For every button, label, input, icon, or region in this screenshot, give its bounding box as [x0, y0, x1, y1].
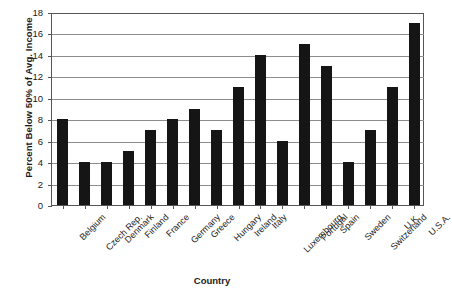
y-tick-mark	[48, 99, 52, 100]
bar	[387, 87, 398, 205]
x-tick-mark	[195, 205, 196, 209]
x-tick-mark	[304, 205, 305, 209]
bar	[101, 162, 112, 205]
y-tick-mark	[48, 77, 52, 78]
x-tick-mark	[326, 205, 327, 209]
y-tick-mark	[48, 56, 52, 57]
x-tick-mark	[107, 205, 108, 209]
bar	[233, 87, 244, 205]
gridline	[52, 77, 424, 78]
x-tick-mark	[260, 205, 261, 209]
y-tick-mark	[48, 185, 52, 186]
bar	[123, 151, 134, 205]
plot-area	[51, 13, 424, 206]
bar	[189, 109, 200, 206]
y-tick-mark	[48, 34, 52, 35]
x-tick-mark	[414, 205, 415, 209]
x-tick-mark	[85, 205, 86, 209]
y-tick-label: 8	[3, 115, 43, 125]
y-tick-label: 12	[3, 72, 43, 82]
y-tick-label: 18	[3, 8, 43, 18]
x-tick-mark	[239, 205, 240, 209]
plot-right-rule	[423, 13, 424, 205]
x-tick-mark	[151, 205, 152, 209]
y-tick-label: 0	[3, 201, 43, 211]
x-tick-mark	[173, 205, 174, 209]
x-tick-mark	[348, 205, 349, 209]
bar	[277, 141, 288, 205]
x-tick-label: Sweden	[363, 212, 393, 242]
y-tick-mark	[48, 13, 52, 14]
bar	[255, 55, 266, 205]
bar	[145, 130, 156, 205]
y-tick-label: 4	[3, 158, 43, 168]
bar	[211, 130, 222, 205]
bar	[321, 66, 332, 205]
y-tick-mark	[48, 206, 52, 207]
y-tick-mark	[48, 163, 52, 164]
x-tick-mark	[129, 205, 130, 209]
bar	[57, 119, 68, 205]
y-tick-label: 2	[3, 180, 43, 190]
gridline	[52, 34, 424, 35]
x-axis-title-text: Country	[194, 275, 230, 286]
bar	[365, 130, 376, 205]
bar	[343, 162, 354, 205]
x-tick-mark	[370, 205, 371, 209]
x-tick-mark	[63, 205, 64, 209]
x-tick-mark	[217, 205, 218, 209]
x-tick-label: U.S.A.	[427, 212, 452, 237]
x-tick-mark	[282, 205, 283, 209]
y-tick-label: 16	[3, 29, 43, 39]
bar	[299, 44, 310, 205]
y-tick-label: 10	[3, 94, 43, 104]
gridline	[52, 56, 424, 57]
y-tick-label: 14	[3, 51, 43, 61]
plot-top-rule	[52, 13, 424, 14]
bar	[409, 23, 420, 205]
y-tick-label: 6	[3, 137, 43, 147]
y-tick-mark	[48, 142, 52, 143]
bar	[79, 162, 90, 205]
y-tick-mark	[48, 120, 52, 121]
x-tick-mark	[392, 205, 393, 209]
x-tick-label: Belgium	[77, 212, 107, 242]
x-axis-title: Country	[0, 275, 438, 286]
bar	[167, 119, 178, 205]
